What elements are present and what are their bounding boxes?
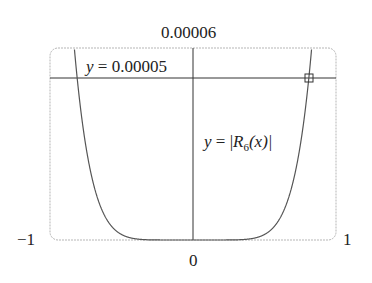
plot-area <box>0 0 372 283</box>
hline-label: y = 0.00005 <box>86 58 167 75</box>
curve-label: y = |R6(x)| <box>204 133 272 153</box>
x-min-label: −1 <box>17 231 35 248</box>
x-origin-label: 0 <box>189 252 198 269</box>
y-max-label: 0.00006 <box>161 24 216 41</box>
x-max-label: 1 <box>343 231 352 248</box>
